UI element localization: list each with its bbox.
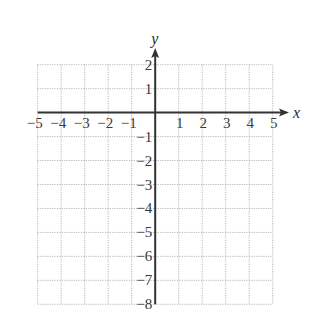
y-tick-label: 1	[145, 81, 153, 97]
x-tick-label: −4	[50, 115, 66, 131]
x-tick-label: 5	[270, 115, 278, 131]
x-tick-label: −2	[97, 115, 113, 131]
x-tick-label: −1	[121, 115, 137, 131]
x-tick-label: −5	[27, 115, 43, 131]
y-tick-label: −1	[136, 129, 152, 145]
x-tick-label: 2	[199, 115, 207, 131]
y-axis-label: y	[149, 30, 159, 48]
y-tick-label: −8	[136, 296, 152, 312]
y-tick-label: −5	[136, 224, 152, 240]
y-tick-label: −2	[136, 153, 152, 169]
coordinate-grid: −5−4−3−2−112345 21−1−2−3−4−5−6−7−8 x y	[0, 0, 309, 329]
y-tick-label: −6	[136, 248, 152, 264]
y-tick-label: −3	[136, 177, 152, 193]
x-axis-label: x	[292, 104, 300, 121]
axes	[38, 48, 289, 304]
y-tick-label: −4	[136, 200, 152, 216]
y-tick-label: 2	[145, 57, 153, 73]
x-tick-label: 4	[246, 115, 254, 131]
y-tick-labels: 21−1−2−3−4−5−6−7−8	[136, 57, 152, 313]
y-tick-label: −7	[136, 272, 152, 288]
x-tick-label: −3	[74, 115, 90, 131]
x-tick-label: 1	[176, 115, 184, 131]
x-tick-label: 3	[223, 115, 231, 131]
